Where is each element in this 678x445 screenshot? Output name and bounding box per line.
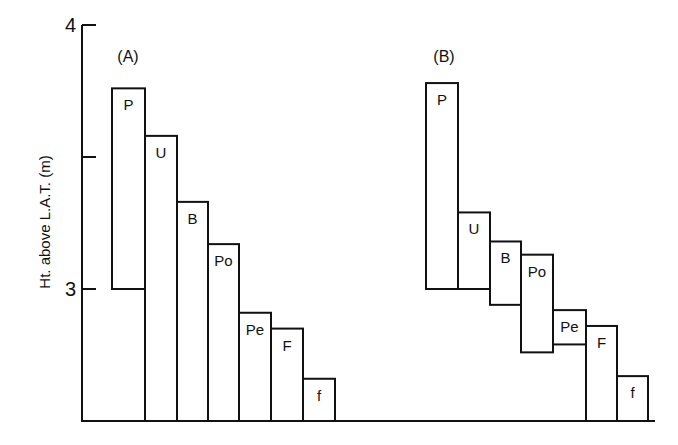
panel-b: (B)PUBPoPeFf <box>426 48 648 421</box>
bar-label: U <box>156 144 167 161</box>
y-axis: 43 Ht. above L.A.T. (m) <box>36 14 96 300</box>
bar-label: Po <box>214 252 232 269</box>
bar-label: P <box>437 91 447 108</box>
panel-label: (A) <box>117 48 138 65</box>
panels: (A)PUBPoPeFf(B)PUBPoPeFf <box>112 48 648 421</box>
panel-label: (B) <box>433 48 454 65</box>
bar-label: U <box>469 220 480 237</box>
bar-label: Pe <box>246 321 264 338</box>
y-axis-title: Ht. above L.A.T. (m) <box>36 155 53 288</box>
panel-a: (A)PUBPoPeFf <box>112 48 335 421</box>
y-tick-label: 4 <box>65 14 76 36</box>
bar-po <box>208 244 239 421</box>
y-ticks: 43 <box>65 14 96 300</box>
bar-u <box>145 136 177 421</box>
bar-p <box>426 83 458 289</box>
y-tick-label: 3 <box>65 278 76 300</box>
bar-label: Pe <box>560 318 578 335</box>
bar-label: F <box>597 334 606 351</box>
bar-p <box>112 88 145 289</box>
bar-b <box>177 202 208 421</box>
bar-label: F <box>282 337 291 354</box>
bar-label: P <box>123 96 133 113</box>
chart: 43 Ht. above L.A.T. (m) (A)PUBPoPeFf(B)P… <box>0 0 678 445</box>
bar-label: B <box>187 210 197 227</box>
bar-label: Po <box>528 263 546 280</box>
bar-label: B <box>500 249 510 266</box>
